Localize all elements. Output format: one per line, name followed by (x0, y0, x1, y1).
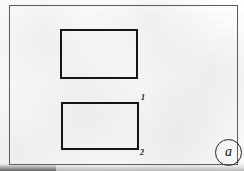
scan-bottom-shadow-left (0, 164, 56, 171)
figure-border: 1 2 a (9, 5, 238, 165)
subfigure-marker-label: a (225, 145, 232, 159)
subfigure-marker-circle: a (215, 139, 242, 166)
lower-rectangle (61, 102, 139, 150)
figure-root: 1 2 a (0, 0, 244, 171)
callout-label-1: 1 (141, 94, 145, 102)
upper-rectangle (60, 29, 138, 79)
callout-label-2: 2 (140, 149, 144, 157)
